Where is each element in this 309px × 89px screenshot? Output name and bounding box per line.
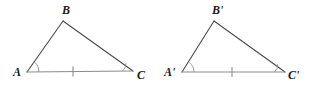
vertex-label-c-prime: C' bbox=[288, 69, 299, 81]
angle-arc-a-prime bbox=[189, 63, 194, 73]
segment-ac bbox=[27, 71, 133, 72]
segment-bc-prime bbox=[214, 21, 285, 72]
triangle-abc bbox=[27, 21, 133, 77]
segment-ab bbox=[27, 21, 63, 72]
vertex-label-b-prime: B' bbox=[212, 4, 223, 16]
vertex-label-a: A bbox=[13, 66, 21, 78]
vertex-label-b: B bbox=[62, 4, 70, 16]
vertex-label-c: C bbox=[137, 69, 145, 81]
triangle-abc-prime bbox=[182, 21, 285, 77]
segment-bc bbox=[63, 21, 133, 71]
angle-arc-a bbox=[35, 62, 39, 72]
geometry-figure: A B C A' B' C' bbox=[0, 0, 309, 89]
segment-ab-prime bbox=[182, 21, 214, 72]
triangles-svg bbox=[0, 0, 309, 89]
vertex-label-a-prime: A' bbox=[164, 66, 175, 78]
